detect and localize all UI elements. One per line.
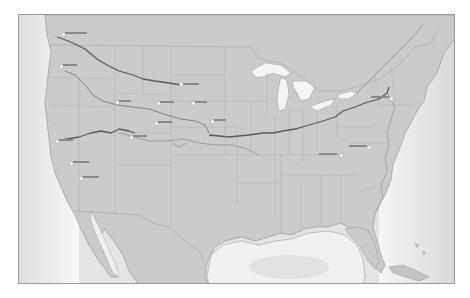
map-label-13	[371, 96, 389, 98]
city-marker[interactable]	[339, 153, 344, 158]
map-frame[interactable]	[18, 14, 455, 284]
map-label-9	[158, 121, 172, 123]
map-label-7	[133, 135, 147, 137]
map-label-3	[119, 100, 131, 102]
us-map[interactable]	[19, 15, 455, 284]
gulf-deep-water	[249, 255, 329, 279]
map-label-1	[65, 32, 87, 34]
map-label-14	[349, 145, 367, 147]
city-marker[interactable]	[367, 145, 372, 150]
map-label-5	[160, 101, 174, 103]
map-label-11	[73, 161, 89, 163]
map-label-6	[59, 139, 73, 141]
map-label-4	[183, 83, 199, 85]
map-label-10	[214, 119, 226, 121]
map-label-8	[195, 101, 207, 103]
map-label-12	[83, 176, 99, 178]
map-label-2	[63, 64, 77, 66]
map-label-15	[319, 153, 337, 155]
city-marker[interactable]	[389, 96, 394, 101]
